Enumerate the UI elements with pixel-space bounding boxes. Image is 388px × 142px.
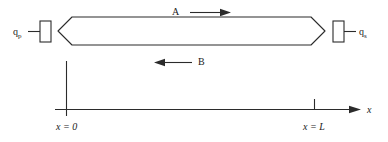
- left-flux-label: qp: [13, 27, 22, 40]
- flux-slab-diagram: qp qs A B x = 0 x = L x: [0, 0, 388, 142]
- flow-label-a: A: [172, 7, 179, 17]
- axis-label-x0: x = 0: [56, 122, 77, 132]
- flow-arrow-b: [154, 59, 192, 66]
- x-axis-arrowhead: [349, 106, 361, 113]
- slab-body: [58, 17, 325, 45]
- axis-label-xL: x = L: [303, 122, 325, 132]
- x-axis: [55, 106, 361, 113]
- flow-label-b: B: [198, 57, 205, 67]
- flow-arrow-a: [190, 9, 231, 16]
- right-end-cap: [333, 21, 344, 42]
- flow-arrow-b-head: [154, 59, 165, 66]
- axis-name-x: x: [367, 105, 371, 115]
- right-flux-label: qs: [359, 27, 367, 40]
- left-flux-subscript: p: [18, 32, 22, 40]
- left-end-cap: [40, 21, 51, 42]
- flow-arrow-a-head: [220, 9, 231, 16]
- right-flux-subscript: s: [364, 32, 367, 40]
